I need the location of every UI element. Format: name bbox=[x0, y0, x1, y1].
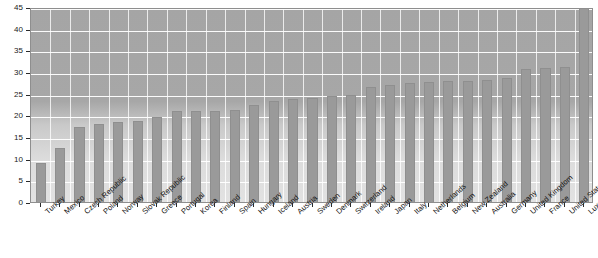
y-tick-label: 25 bbox=[14, 91, 23, 99]
x-tick-mark bbox=[137, 203, 138, 207]
bar bbox=[307, 98, 317, 202]
x-tick-label: Sweden bbox=[316, 210, 321, 216]
x-tick-mark bbox=[506, 203, 507, 207]
x-axis: TurkeyMexicoCzech RepublicPolandNorwaySl… bbox=[30, 203, 593, 258]
bar bbox=[288, 99, 298, 202]
x-tick-label: Mexico bbox=[63, 210, 68, 216]
y-tick-label: 15 bbox=[14, 134, 23, 142]
x-tick-mark bbox=[59, 203, 60, 207]
x-tick-label: United Kingdom bbox=[529, 210, 534, 216]
x-tick-mark bbox=[428, 203, 429, 207]
x-tick-mark bbox=[79, 203, 80, 207]
x-tick-label: Ireland bbox=[374, 210, 379, 216]
y-tick-label: 5 bbox=[19, 177, 23, 185]
x-tick-label: Germany bbox=[510, 210, 515, 216]
bar bbox=[424, 82, 434, 202]
bar bbox=[191, 111, 201, 202]
x-tick-mark bbox=[467, 203, 468, 207]
bar bbox=[133, 121, 143, 202]
x-tick-label: Japan bbox=[393, 210, 398, 216]
x-tick-mark bbox=[331, 203, 332, 207]
x-tick-label: Australia bbox=[490, 210, 495, 216]
x-tick-mark bbox=[370, 203, 371, 207]
x-tick-mark bbox=[234, 203, 235, 207]
y-tick-label: 35 bbox=[14, 47, 23, 55]
x-tick-mark bbox=[525, 203, 526, 207]
y-tick-label: 40 bbox=[14, 26, 23, 34]
x-tick-mark bbox=[156, 203, 157, 207]
bar bbox=[346, 95, 356, 202]
x-tick-mark bbox=[40, 203, 41, 207]
bar bbox=[269, 101, 279, 202]
x-tick-mark bbox=[195, 203, 196, 207]
x-tick-label: Luxembourg bbox=[587, 210, 592, 216]
x-tick-label: New Zealand bbox=[471, 210, 476, 216]
x-tick-mark bbox=[98, 203, 99, 207]
x-tick-label: Netherlands bbox=[432, 210, 437, 216]
x-tick-mark bbox=[176, 203, 177, 207]
x-tick-mark bbox=[409, 203, 410, 207]
x-tick-label: Belgium bbox=[451, 210, 456, 216]
x-tick-label: Denmark bbox=[335, 210, 340, 216]
x-tick-mark bbox=[312, 203, 313, 207]
x-tick-label: United States bbox=[568, 210, 573, 216]
y-tick-label: 10 bbox=[14, 156, 23, 164]
bar bbox=[540, 68, 550, 202]
bar bbox=[327, 96, 337, 202]
x-tick-label: Czech Republic bbox=[83, 210, 88, 216]
x-tick-label: Greece bbox=[160, 210, 165, 216]
x-tick-mark bbox=[389, 203, 390, 207]
x-tick-mark bbox=[564, 203, 565, 207]
x-tick-label: Slovak Republic bbox=[141, 210, 146, 216]
x-tick-label: Turkey bbox=[44, 210, 49, 216]
bar bbox=[249, 105, 259, 203]
plot-area bbox=[30, 8, 593, 203]
bar bbox=[210, 111, 220, 202]
bar bbox=[521, 69, 531, 202]
bar bbox=[230, 110, 240, 202]
x-tick-mark bbox=[350, 203, 351, 207]
x-tick-mark bbox=[253, 203, 254, 207]
x-tick-mark bbox=[544, 203, 545, 207]
bar-series bbox=[31, 9, 592, 202]
y-tick-label: 0 bbox=[19, 199, 23, 207]
x-tick-mark bbox=[117, 203, 118, 207]
x-tick-label: Finland bbox=[218, 210, 223, 216]
x-tick-mark bbox=[583, 203, 584, 207]
x-tick-label: Austria bbox=[296, 210, 301, 216]
x-tick-mark bbox=[273, 203, 274, 207]
x-tick-label: Poland bbox=[102, 210, 107, 216]
x-tick-mark bbox=[486, 203, 487, 207]
bar bbox=[366, 87, 376, 202]
x-tick-label: Spain bbox=[238, 210, 243, 216]
bar bbox=[405, 83, 415, 202]
bar-chart-figure: 051015202530354045 TurkeyMexicoCzech Rep… bbox=[0, 0, 598, 258]
y-tick-label: 30 bbox=[14, 69, 23, 77]
bar bbox=[443, 81, 453, 202]
x-tick-label: Norway bbox=[121, 210, 126, 216]
x-tick-label: Korea bbox=[199, 210, 204, 216]
bar bbox=[385, 85, 395, 202]
y-tick-label: 45 bbox=[14, 4, 23, 12]
chart-title-clipped bbox=[150, 0, 450, 6]
x-tick-mark bbox=[214, 203, 215, 207]
y-axis: 051015202530354045 bbox=[0, 0, 30, 211]
x-tick-label: Italy bbox=[413, 210, 418, 216]
bar bbox=[74, 127, 84, 202]
x-tick-label: Switzerland bbox=[354, 210, 359, 216]
x-tick-mark bbox=[447, 203, 448, 207]
y-tick-label: 20 bbox=[14, 112, 23, 120]
bar bbox=[36, 163, 46, 202]
bar bbox=[579, 8, 589, 202]
x-tick-label: Hungary bbox=[257, 210, 262, 216]
x-tick-label: Portugal bbox=[180, 210, 185, 216]
x-tick-label: Iceland bbox=[277, 210, 282, 216]
bar bbox=[482, 80, 492, 202]
x-tick-mark bbox=[292, 203, 293, 207]
x-tick-label: France bbox=[548, 210, 553, 216]
